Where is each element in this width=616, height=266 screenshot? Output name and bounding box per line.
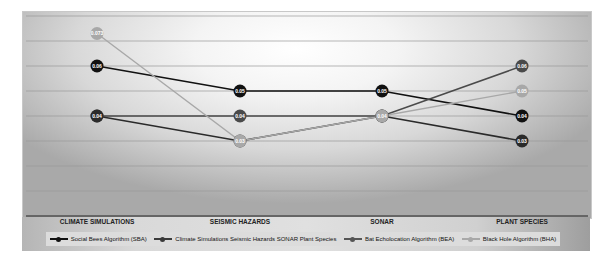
legend-item-bea[interactable]: Bat Echolocation Algorithm (BEA) — [344, 236, 454, 242]
data-label: 0.06 — [92, 63, 102, 69]
data-point[interactable]: 0.05 — [376, 85, 389, 98]
legend-line-marker-icon — [462, 238, 480, 240]
legend-item-bha[interactable]: Black Hole Algorithm (BHA) — [462, 236, 556, 242]
data-point[interactable]: 0.04 — [376, 110, 389, 123]
data-point[interactable]: 0.073 — [91, 27, 104, 40]
data-point[interactable]: 0.05 — [516, 85, 529, 98]
x-tick-label: CLIMATE SIMULATIONS — [60, 218, 135, 225]
data-label: 0.04 — [92, 113, 102, 119]
x-tick-label: SEISMIC HAZARDS — [210, 218, 271, 225]
x-axis-labels: CLIMATE SIMULATIONS SEISMIC HAZARDS SONA… — [60, 218, 549, 225]
data-point[interactable]: 0.06 — [91, 60, 104, 73]
series-line — [97, 34, 522, 142]
data-label: 0.073 — [91, 30, 104, 36]
data-point[interactable]: 0.04 — [91, 110, 104, 123]
data-label: 0.03 — [517, 138, 527, 144]
data-label: 0.04 — [377, 113, 387, 119]
data-label: 0.03 — [235, 138, 245, 144]
data-point[interactable]: 0.05 — [234, 85, 247, 98]
line-chart: 0.060.050.050.040.040.040.040.060.040.03… — [0, 0, 616, 266]
x-tick-label: SONAR — [370, 218, 394, 225]
series-lines — [97, 34, 522, 142]
legend-item-climate-simulations[interactable]: Climate Simulations Seismic Hazards SONA… — [154, 236, 336, 242]
data-point[interactable]: 0.04 — [234, 110, 247, 123]
data-point[interactable]: 0.03 — [516, 135, 529, 148]
legend-label: Climate Simulations Seismic Hazards SONA… — [175, 236, 336, 242]
gridlines — [26, 16, 588, 191]
data-label: 0.04 — [235, 113, 245, 119]
legend-line-marker-icon — [344, 238, 362, 240]
data-label: 0.04 — [517, 113, 527, 119]
legend-label: Black Hole Algorithm (BHA) — [483, 236, 556, 242]
data-point[interactable]: 0.03 — [234, 135, 247, 148]
data-label: 0.05 — [517, 88, 527, 94]
legend-line-marker-icon — [154, 238, 172, 240]
legend-label: Bat Echolocation Algorithm (BEA) — [365, 236, 454, 242]
data-label: 0.06 — [517, 63, 527, 69]
legend-label: Social Bees Algorithm (SBA) — [71, 236, 147, 242]
chart-legend: Social Bees Algorithm (SBA) Climate Simu… — [46, 232, 560, 246]
data-label: 0.05 — [377, 88, 387, 94]
data-label: 0.05 — [235, 88, 245, 94]
legend-line-marker-icon — [50, 238, 68, 240]
data-point[interactable]: 0.06 — [516, 60, 529, 73]
legend-item-sba[interactable]: Social Bees Algorithm (SBA) — [50, 236, 147, 242]
data-point[interactable]: 0.04 — [516, 110, 529, 123]
x-tick-label: PLANT SPECIES — [496, 218, 548, 225]
